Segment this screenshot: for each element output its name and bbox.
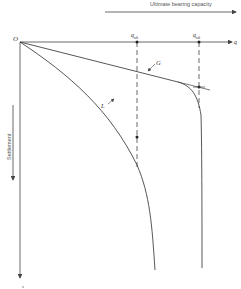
settlement-arrow: Settlement: [6, 105, 13, 180]
curve-L-label-group: L: [100, 99, 114, 109]
settlement-label: Settlement: [6, 133, 12, 160]
qult-G-axis-dot: [198, 41, 201, 44]
curve-G-label-group: G: [148, 59, 161, 71]
curve-L: [20, 42, 155, 270]
axes: O q s: [13, 35, 237, 289]
q-axis-label: q: [234, 39, 237, 45]
qult-L-axis-dot: [136, 41, 139, 44]
qult-L-curve-dot: [136, 136, 139, 139]
bearing-capacity-diagram: Ultimate bearing capacity O q s Settleme…: [0, 0, 241, 289]
tangent-line-G: [178, 82, 210, 90]
s-axis-label: s: [22, 284, 24, 289]
curve-G: [20, 42, 202, 268]
curve-L-label: L: [100, 102, 105, 109]
ultimate-bearing-capacity-arrow: Ultimate bearing capacity: [105, 1, 236, 12]
qult-G-label: qult: [193, 32, 201, 40]
qult-L-label: qult: [131, 32, 139, 40]
ultimate-bearing-capacity-label: Ultimate bearing capacity: [150, 1, 212, 7]
curve-G-label: G: [156, 59, 161, 66]
origin-label: O: [13, 35, 18, 43]
